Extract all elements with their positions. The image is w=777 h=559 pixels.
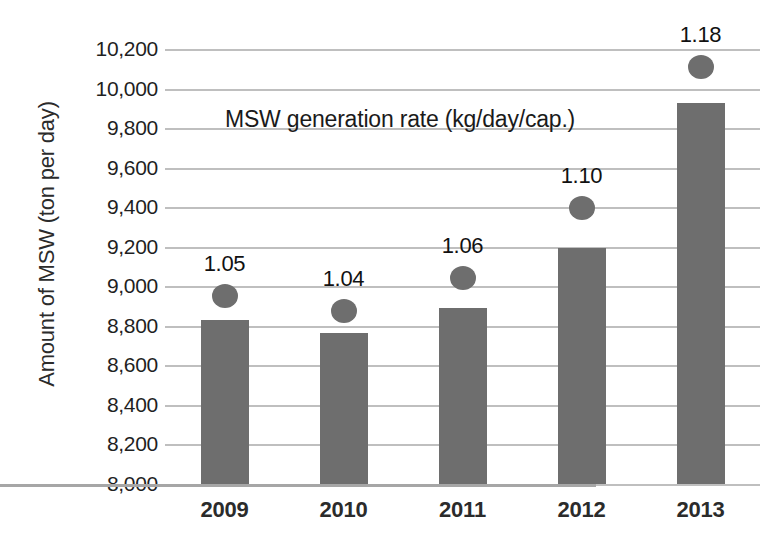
bar-2009	[201, 320, 249, 484]
y-axis-tick-8600: 8,600	[58, 353, 158, 377]
gridline	[165, 49, 760, 51]
bar-2012	[558, 248, 606, 484]
y-axis-tick-labels: 10,20010,0009,8009,6009,4009,2009,0008,8…	[58, 0, 158, 559]
data-label-2009: 1.05	[204, 251, 246, 277]
chart-container: Amount of MSW (ton per day) 10,20010,000…	[0, 0, 777, 559]
bar-2013	[677, 103, 725, 484]
x-axis-tick-2010: 2010	[284, 497, 404, 523]
x-axis-tick-2009: 2009	[165, 497, 285, 523]
gridline	[165, 168, 760, 170]
bar-2010	[320, 333, 368, 484]
gridline	[165, 89, 760, 91]
data-label-2010: 1.04	[323, 266, 365, 292]
x-axis-tick-labels: 20092010201120122013	[165, 497, 760, 537]
x-axis-line	[0, 484, 596, 487]
bar-2011	[439, 308, 487, 484]
marker-2011	[450, 266, 476, 290]
series-annotation-label: MSW generation rate (kg/day/cap.)	[225, 106, 575, 133]
y-axis-tick-9000: 9,000	[58, 274, 158, 298]
y-axis-tick-8400: 8,400	[58, 393, 158, 417]
y-axis-tick-9400: 9,400	[58, 195, 158, 219]
data-label-2012: 1.10	[561, 163, 603, 189]
marker-2012	[569, 196, 595, 220]
y-axis-tick-9200: 9,200	[58, 235, 158, 259]
y-axis-tick-9600: 9,600	[58, 156, 158, 180]
data-label-2011: 1.06	[442, 233, 484, 259]
marker-2010	[331, 299, 357, 323]
x-axis-tick-2013: 2013	[641, 497, 761, 523]
y-axis-tick-8800: 8,800	[58, 314, 158, 338]
marker-2009	[212, 284, 238, 308]
x-axis-tick-2012: 2012	[522, 497, 642, 523]
y-axis-tick-9800: 9,800	[58, 116, 158, 140]
gridline	[165, 207, 760, 209]
y-axis-tick-10200: 10,200	[58, 37, 158, 61]
data-label-2013: 1.18	[680, 22, 722, 48]
y-axis-tick-10000: 10,000	[58, 77, 158, 101]
x-axis-tick-2011: 2011	[403, 497, 523, 523]
marker-2013	[688, 55, 714, 79]
y-axis-tick-8200: 8,200	[58, 432, 158, 456]
